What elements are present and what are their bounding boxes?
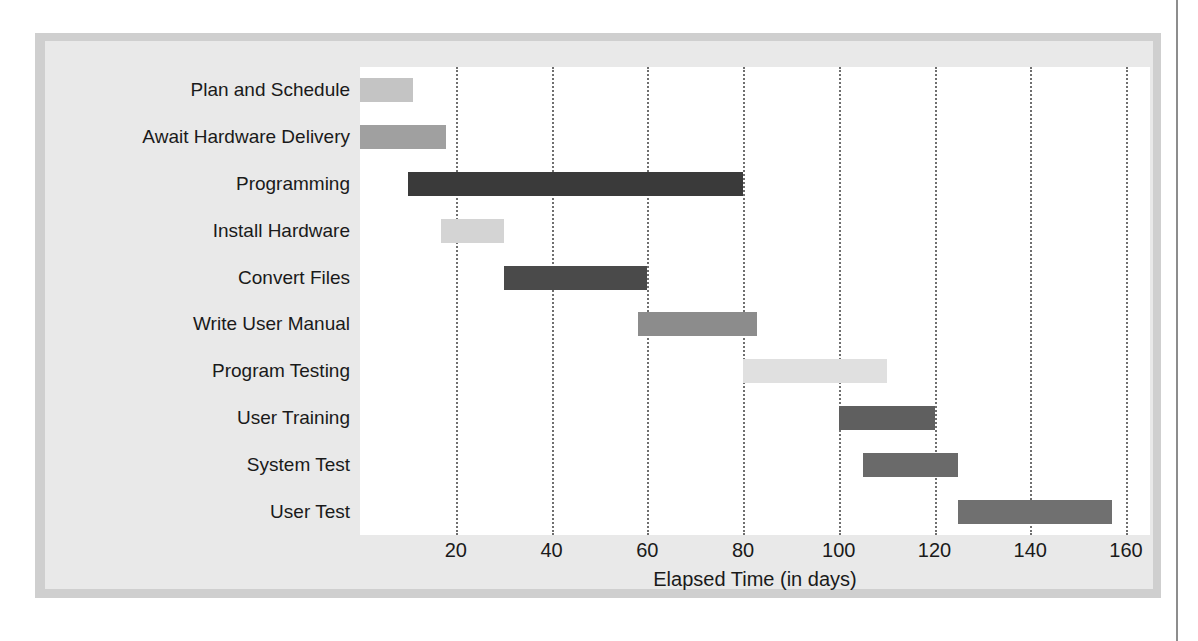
x-axis-tick-labels: 20406080100120140160 xyxy=(360,539,1150,569)
gantt-bar[interactable] xyxy=(360,78,413,102)
gantt-bar[interactable] xyxy=(958,500,1111,524)
gantt-bar[interactable] xyxy=(863,453,959,477)
gantt-task-row xyxy=(360,67,1150,114)
y-axis-category-label: Plan and Schedule xyxy=(60,79,350,101)
gantt-chart-figure-frame: Plan and ScheduleAwait Hardware Delivery… xyxy=(35,33,1161,598)
gantt-task-row xyxy=(360,348,1150,395)
gantt-bar[interactable] xyxy=(408,172,743,196)
gantt-task-row xyxy=(360,441,1150,488)
x-tick-label: 160 xyxy=(1109,539,1142,562)
gantt-bar[interactable] xyxy=(360,125,446,149)
y-axis-category-label: Programming xyxy=(60,173,350,195)
gantt-task-row xyxy=(360,161,1150,208)
gantt-task-row xyxy=(360,254,1150,301)
gantt-chart-panel: Plan and ScheduleAwait Hardware Delivery… xyxy=(45,41,1153,589)
y-axis-category-label: User Training xyxy=(60,407,350,429)
gantt-bar[interactable] xyxy=(441,219,503,243)
gantt-task-row xyxy=(360,395,1150,442)
y-axis-category-label: Install Hardware xyxy=(60,220,350,242)
gantt-bar[interactable] xyxy=(504,266,648,290)
y-axis-category-label: System Test xyxy=(60,454,350,476)
x-axis-title: Elapsed Time (in days) xyxy=(360,568,1150,591)
x-tick-label: 80 xyxy=(732,539,754,562)
page-right-rule xyxy=(1176,0,1178,641)
gantt-task-row xyxy=(360,114,1150,161)
gantt-bar[interactable] xyxy=(638,312,758,336)
x-tick-label: 100 xyxy=(822,539,855,562)
plot-area xyxy=(360,67,1150,535)
y-axis-category-label: Program Testing xyxy=(60,360,350,382)
gantt-task-row xyxy=(360,301,1150,348)
gantt-bar[interactable] xyxy=(839,406,935,430)
gantt-bar[interactable] xyxy=(743,359,887,383)
y-axis-category-label: Write User Manual xyxy=(60,313,350,335)
y-axis-category-label: Await Hardware Delivery xyxy=(60,126,350,148)
x-tick-label: 40 xyxy=(540,539,562,562)
x-tick-label: 60 xyxy=(636,539,658,562)
y-axis-category-labels: Plan and ScheduleAwait Hardware Delivery… xyxy=(55,67,350,535)
x-tick-label: 140 xyxy=(1014,539,1047,562)
gantt-task-row xyxy=(360,207,1150,254)
gantt-task-row xyxy=(360,488,1150,535)
x-tick-label: 20 xyxy=(445,539,467,562)
y-axis-category-label: User Test xyxy=(60,501,350,523)
gantt-chart: Plan and ScheduleAwait Hardware Delivery… xyxy=(45,41,1153,589)
x-tick-label: 120 xyxy=(918,539,951,562)
y-axis-category-label: Convert Files xyxy=(60,267,350,289)
